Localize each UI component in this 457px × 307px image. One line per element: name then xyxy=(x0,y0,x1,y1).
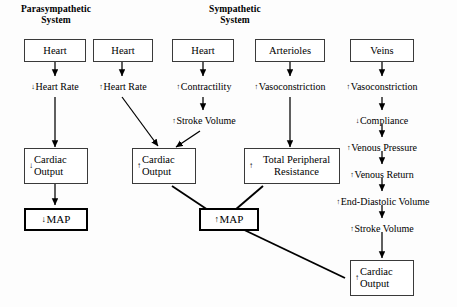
up-arrow-icon: ↑ xyxy=(350,225,354,233)
step-increased-vasoconstriction-veins: ↑ Vasoconstriction xyxy=(320,79,444,95)
down-arrow-icon: ↓ xyxy=(356,117,360,125)
up-arrow-icon: ↑ xyxy=(249,162,253,170)
up-arrow-icon: ↑ xyxy=(350,171,354,179)
up-arrow-icon: ↑ xyxy=(255,83,259,91)
step-increased-contractility-label: Contractility xyxy=(181,82,232,93)
step-increased-vasoconstriction-arterioles-label: Vasoconstriction xyxy=(259,82,326,93)
up-arrow-icon: ↑ xyxy=(99,83,103,91)
header-parasympathetic-line1: Parasympathetic xyxy=(21,4,91,15)
node-cardiac-output-decreased-line1: Cardiac xyxy=(34,154,67,166)
step-increased-venous-pressure-label: Venous Pressure xyxy=(351,143,417,154)
node-heart-parasympathetic[interactable]: Heart xyxy=(24,39,86,62)
node-total-peripheral-resistance-line1: Total Peripheral xyxy=(263,154,330,166)
node-total-peripheral-resistance-line2: Resistance xyxy=(274,166,319,178)
step-decreased-compliance-label: Compliance xyxy=(360,116,408,127)
step-increased-heart-rate-label: Heart Rate xyxy=(104,82,147,93)
node-heart-sympathetic-rate-label: Heart xyxy=(111,45,134,56)
down-arrow-icon: ↓ xyxy=(42,214,47,223)
down-arrow-icon: ↓ xyxy=(31,83,35,91)
flowchart-canvas: Parasympathetic System Sympathetic Syste… xyxy=(0,0,457,307)
step-increased-stroke-volume-sympathetic-label: Stroke Volume xyxy=(176,116,235,127)
down-arrow-icon: ↓ xyxy=(29,162,33,170)
up-arrow-icon: ↑ xyxy=(347,83,351,91)
node-arterioles[interactable]: Arterioles xyxy=(255,39,325,62)
up-arrow-icon: ↑ xyxy=(172,117,176,125)
node-veins-label: Veins xyxy=(370,45,393,56)
header-sympathetic: Sympathetic System xyxy=(180,4,290,26)
header-parasympathetic: Parasympathetic System xyxy=(2,4,110,26)
node-cardiac-output-increased-right[interactable]: ↑ Cardiac Output xyxy=(350,260,414,296)
up-arrow-icon: ↑ xyxy=(177,83,181,91)
up-arrow-icon: ↑ xyxy=(347,144,351,152)
node-arterioles-label: Arterioles xyxy=(269,45,311,56)
step-increased-end-diastolic-volume-label: End-Diastolic Volume xyxy=(341,197,430,208)
up-arrow-icon: ↑ xyxy=(336,198,340,206)
step-decreased-compliance: ↓ Compliance xyxy=(320,113,444,129)
header-sympathetic-line2: System xyxy=(209,15,261,26)
node-cardiac-output-increased-right-line1: Cardiac xyxy=(360,266,393,278)
node-cardiac-output-decreased-line2: Output xyxy=(34,166,63,178)
step-increased-vasoconstriction-veins-label: Vasoconstriction xyxy=(351,82,418,93)
node-map-decreased-label: MAP xyxy=(47,214,71,226)
up-arrow-icon: ↑ xyxy=(215,214,220,223)
node-veins[interactable]: Veins xyxy=(350,39,414,62)
node-map-increased[interactable]: ↑ MAP xyxy=(199,208,259,231)
up-arrow-icon: ↑ xyxy=(355,274,359,282)
node-cardiac-output-increased-middle[interactable]: ↑ Cardiac Output xyxy=(132,148,196,184)
node-total-peripheral-resistance[interactable]: ↑ Total Peripheral Resistance xyxy=(244,148,340,184)
node-heart-sympathetic-rate[interactable]: Heart xyxy=(93,39,153,62)
step-increased-stroke-volume-venous-label: Stroke Volume xyxy=(354,224,413,235)
node-heart-sympathetic-contractility[interactable]: Heart xyxy=(172,39,234,62)
node-heart-sympathetic-contractility-label: Heart xyxy=(191,45,214,56)
node-cardiac-output-increased-right-line2: Output xyxy=(360,278,389,290)
node-cardiac-output-decreased[interactable]: ↓ Cardiac Output xyxy=(24,148,88,184)
up-arrow-icon: ↑ xyxy=(137,162,141,170)
node-map-decreased[interactable]: ↓ MAP xyxy=(24,208,88,231)
step-increased-end-diastolic-volume: ↑ End-Diastolic Volume xyxy=(310,194,456,210)
step-increased-venous-return-label: Venous Return xyxy=(355,170,414,181)
step-increased-stroke-volume-sympathetic: ↑ Stroke Volume xyxy=(152,113,256,129)
header-parasympathetic-line2: System xyxy=(21,15,91,26)
step-increased-stroke-volume-venous: ↑ Stroke Volume xyxy=(320,221,444,237)
node-heart-parasympathetic-label: Heart xyxy=(43,45,66,56)
node-map-increased-label: MAP xyxy=(220,214,244,226)
node-cardiac-output-increased-middle-line1: Cardiac xyxy=(142,154,175,166)
node-cardiac-output-increased-middle-line2: Output xyxy=(142,166,171,178)
header-sympathetic-line1: Sympathetic xyxy=(209,4,261,15)
